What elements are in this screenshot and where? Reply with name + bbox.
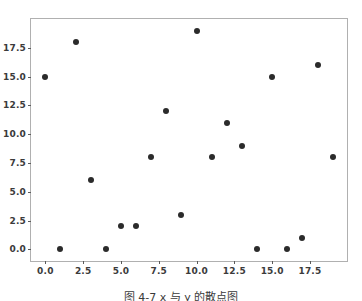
scatter-point xyxy=(88,177,94,183)
y-axis-tick-mark xyxy=(28,77,31,78)
x-axis-tick-mark xyxy=(310,261,311,264)
y-axis-tick-mark xyxy=(28,221,31,222)
scatter-point xyxy=(224,120,230,126)
x-axis-tick-mark xyxy=(197,261,198,264)
y-axis-tick-label: 0.0 xyxy=(9,244,26,254)
x-axis-tick-mark xyxy=(121,261,122,264)
x-axis-tick-label: 10.0 xyxy=(185,266,208,276)
scatter-point xyxy=(209,154,215,160)
scatter-point xyxy=(315,62,321,68)
scatter-point xyxy=(330,154,336,160)
y-axis-tick-label: 12.5 xyxy=(3,100,26,110)
x-axis-tick-mark xyxy=(83,261,84,264)
y-axis-tick-label: 5.0 xyxy=(9,187,26,197)
x-axis-tick-label: 5.0 xyxy=(113,266,130,276)
figure-caption: 图 4-7 x 与 y 的散点图 xyxy=(0,291,362,301)
y-axis-tick-mark xyxy=(28,48,31,49)
scatter-point xyxy=(163,108,169,114)
figure-canvas: 0.02.55.07.510.012.515.017.5 0.02.55.07.… xyxy=(0,0,362,301)
scatter-point xyxy=(118,223,124,229)
scatter-points-layer xyxy=(31,19,347,261)
y-axis-tick-label: 17.5 xyxy=(3,43,26,53)
x-axis-tick-mark xyxy=(234,261,235,264)
y-axis-tick-mark xyxy=(28,163,31,164)
x-axis-tick-mark xyxy=(159,261,160,264)
y-axis-tick-label: 2.5 xyxy=(9,216,26,226)
y-axis-tick-label: 10.0 xyxy=(3,129,26,139)
x-axis-tick-mark xyxy=(272,261,273,264)
scatter-point xyxy=(254,246,260,252)
scatter-point xyxy=(284,246,290,252)
scatter-point xyxy=(73,39,79,45)
scatter-plot-axes: 0.02.55.07.510.012.515.017.5 0.02.55.07.… xyxy=(30,18,348,262)
scatter-point xyxy=(269,74,275,80)
y-axis-tick-mark xyxy=(28,134,31,135)
x-axis-tick-label: 0.0 xyxy=(37,266,54,276)
scatter-point xyxy=(194,28,200,34)
y-axis-tick-label: 15.0 xyxy=(3,72,26,82)
scatter-point xyxy=(148,154,154,160)
x-axis-tick-mark xyxy=(45,261,46,264)
y-axis-tick-mark xyxy=(28,105,31,106)
x-axis-tick-label: 2.5 xyxy=(75,266,92,276)
scatter-point xyxy=(57,246,63,252)
scatter-point xyxy=(133,223,139,229)
y-axis-tick-mark xyxy=(28,192,31,193)
x-axis-tick-label: 17.5 xyxy=(298,266,321,276)
y-axis-tick-mark xyxy=(28,249,31,250)
y-axis-tick-label: 7.5 xyxy=(9,158,26,168)
scatter-point xyxy=(42,74,48,80)
x-axis-tick-label: 7.5 xyxy=(150,266,167,276)
x-axis-tick-label: 12.5 xyxy=(223,266,246,276)
scatter-point xyxy=(299,235,305,241)
x-axis-tick-label: 15.0 xyxy=(261,266,284,276)
scatter-point xyxy=(103,246,109,252)
scatter-point xyxy=(178,212,184,218)
scatter-point xyxy=(239,143,245,149)
